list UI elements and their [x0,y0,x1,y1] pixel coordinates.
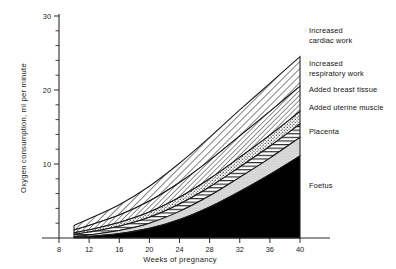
legend-item-foetus: Foetus [309,181,333,190]
x-tick-label: 20 [145,245,153,254]
x-tick-label: 32 [236,245,244,254]
x-tick-label: 12 [85,245,93,254]
legend-label-line1: Foetus [309,181,333,190]
y-tick-label: 10 [43,160,51,169]
x-tick-label: 24 [175,245,183,254]
legend-label-line1: Increased [309,59,343,68]
x-tick-label: 28 [206,245,214,254]
x-tick-label: 8 [57,245,61,254]
y-axis-title: Oxygen consumption, ml per minute [19,63,28,193]
legend-item-added-breast-tissue: Added breast tissue [309,85,377,94]
legend-label-line1: Added breast tissue [309,85,377,94]
legend-item-placenta: Placenta [309,127,340,136]
legend-item-added-uterine-muscle: Added uterine muscle [309,103,384,112]
y-tick-label: 30 [43,12,51,21]
oxygen-consumption-chart: 102030 81216202428323640 Oxygen consumpt… [0,0,396,269]
legend-label-line1: Placenta [309,127,340,136]
legend-label-line1: Added uterine muscle [309,103,384,112]
legend-label-line2: cardiac work [309,36,352,45]
x-axis-title: Weeks of pregnancy [143,255,217,264]
legend-label-line2: respiratory work [309,69,364,78]
x-tick-label: 16 [115,245,123,254]
legend-label-line1: Increased [309,26,343,35]
x-tick-label: 40 [296,245,304,254]
y-tick-label: 20 [43,86,51,95]
x-tick-label: 36 [266,245,274,254]
chart-canvas: 102030 81216202428323640 Oxygen consumpt… [0,0,396,269]
